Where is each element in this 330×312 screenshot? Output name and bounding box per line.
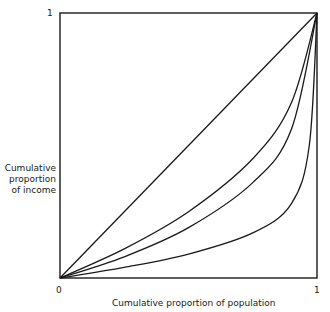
x-tick-1: 1 xyxy=(314,285,320,296)
x-tick-0: 0 xyxy=(56,285,62,296)
x-axis-label: Cumulative proportion of population xyxy=(112,298,275,309)
y-axis-label-line: of income xyxy=(2,185,56,196)
lorenz-chart xyxy=(0,0,330,312)
y-tick-1: 1 xyxy=(47,8,53,19)
y-axis-label: Cumulative proportion of income xyxy=(2,163,56,196)
y-axis-label-line: Cumulative xyxy=(2,163,56,174)
equality-line xyxy=(60,13,317,278)
y-axis-label-line: proportion xyxy=(2,174,56,185)
